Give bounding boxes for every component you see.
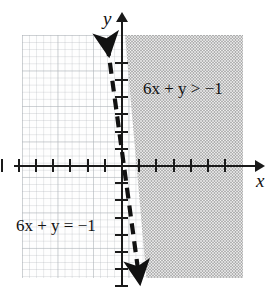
- graph-figure: x y 6x + y > −1 6x + y = −1: [0, 0, 276, 295]
- boundary-line: [0, 0, 276, 295]
- equation-label: 6x + y = −1: [16, 216, 96, 236]
- boundary-line-dashed: [108, 45, 139, 273]
- inequality-label: 6x + y > −1: [143, 79, 223, 99]
